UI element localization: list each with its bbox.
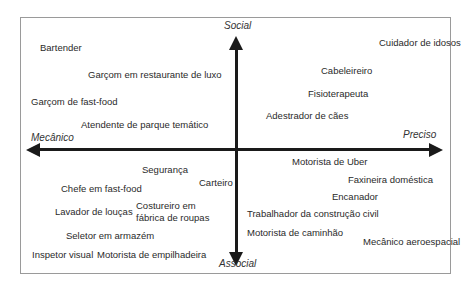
occupation-label: Bartender [40,42,82,54]
occupation-label: Garçom em restaurante de luxo [88,69,222,81]
arrow-up-icon [229,36,243,50]
occupation-label: Segurança [142,164,188,176]
occupation-label: Cabeleireiro [321,65,372,77]
occupation-label: Adestrador de cães [266,110,348,122]
occupation-label: Inspetor visual [32,249,93,261]
occupation-label: Mecânico aeroespacial [363,236,460,248]
occupation-label: Faxineira doméstica [348,174,433,186]
arrow-left-icon [26,143,40,157]
horizontal-axis [34,148,430,151]
occupation-label: Fisioterapeuta [308,88,368,100]
occupation-label: Motorista de caminhão [247,227,343,239]
occupation-label: Atendente de parque temático [81,119,208,131]
occupation-label: Costureiro em fábrica de roupas [136,200,216,224]
axis-label-left: Mecânico [31,132,74,143]
axis-label-top: Social [224,20,251,31]
axis-label-right: Preciso [403,129,436,140]
arrow-right-icon [429,143,443,157]
occupation-label: Motorista de empilhadeira [97,249,206,261]
occupation-label: Chefe em fast-food [61,183,142,195]
occupation-label: Lavador de louças [55,206,133,218]
occupation-label: Seletor em armazém [66,230,154,242]
axis-label-bottom: Associal [219,258,256,269]
occupation-label: Trabalhador da construção civil [247,208,379,220]
occupation-label: Carteiro [199,177,233,189]
occupation-label: Motorista de Uber [292,156,368,168]
occupation-label: Cuidador de idosos [379,37,461,49]
occupation-label: Garçom de fast-food [31,96,118,108]
occupation-label: Encanador [332,191,378,203]
vertical-axis [235,46,238,254]
